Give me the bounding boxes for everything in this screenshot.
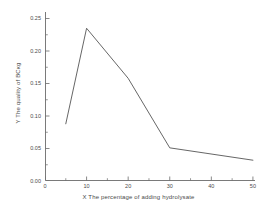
plot-area <box>45 12 255 181</box>
y-tick-label: 0.00 <box>19 178 41 184</box>
data-series-line <box>66 28 253 160</box>
x-tick-label: 0 <box>35 183 55 189</box>
axis-ticks <box>45 19 253 182</box>
x-tick-label: 50 <box>243 183 263 189</box>
y-axis-title: Y The quality of BCκg <box>15 28 21 158</box>
y-tick-label: 0.15 <box>19 80 41 86</box>
x-tick-label: 30 <box>160 183 180 189</box>
x-axis-title: X The percentage of adding hydrolysate <box>0 194 277 200</box>
line-chart: 01020304050 0.000.050.100.150.200.25 X T… <box>0 0 277 212</box>
y-tick-label: 0.05 <box>19 145 41 151</box>
plot-canvas <box>45 12 255 181</box>
x-tick-label: 40 <box>201 183 221 189</box>
y-tick-label: 0.25 <box>19 15 41 21</box>
axis-lines <box>46 12 256 181</box>
x-tick-label: 20 <box>118 183 138 189</box>
y-tick-label: 0.10 <box>19 113 41 119</box>
x-tick-label: 10 <box>77 183 97 189</box>
y-tick-label: 0.20 <box>19 48 41 54</box>
